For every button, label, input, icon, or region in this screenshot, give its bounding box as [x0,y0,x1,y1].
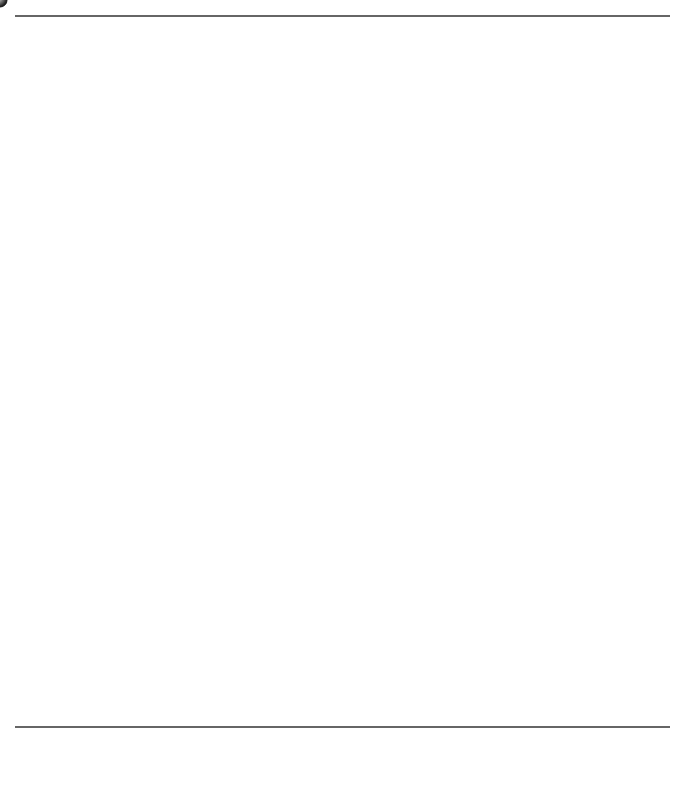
end-ball-icon [0,0,7,7]
ball-bounce-diagram [0,0,685,794]
